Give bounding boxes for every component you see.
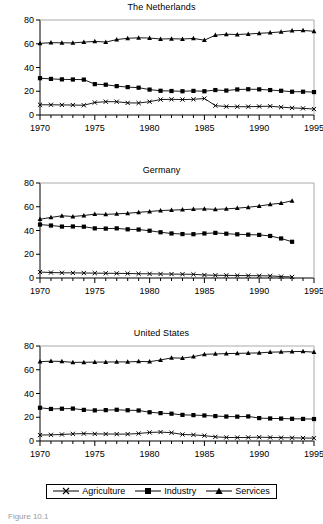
filled-square-marker-icon: [135, 486, 161, 496]
svg-text:1995: 1995: [304, 449, 323, 459]
line-chart-germany: 020406080197019751980198519901995: [0, 177, 323, 307]
svg-text:60: 60: [24, 39, 34, 49]
legend-box: Agriculture Industry Services: [46, 484, 277, 499]
svg-text:1970: 1970: [30, 286, 50, 296]
svg-text:40: 40: [24, 226, 34, 236]
svg-text:40: 40: [24, 389, 34, 399]
svg-text:1985: 1985: [194, 286, 214, 296]
svg-text:1975: 1975: [85, 449, 105, 459]
svg-text:60: 60: [24, 202, 34, 212]
plot-area-germany: 020406080197019751980198519901995: [0, 177, 323, 307]
chart-legend: Agriculture Industry Services: [0, 484, 323, 499]
svg-text:0: 0: [29, 436, 34, 446]
svg-text:40: 40: [24, 63, 34, 73]
legend-label-industry: Industry: [164, 487, 196, 496]
svg-text:1980: 1980: [140, 286, 160, 296]
svg-text:1970: 1970: [30, 449, 50, 459]
svg-text:80: 80: [24, 178, 34, 188]
chart-title-netherlands: The Netherlands: [0, 2, 323, 12]
svg-text:20: 20: [24, 86, 34, 96]
svg-text:1985: 1985: [194, 123, 214, 133]
svg-text:1990: 1990: [249, 286, 269, 296]
chart-panel-netherlands: The Netherlands 020406080197019751980198…: [0, 0, 323, 163]
x-marker-icon: [53, 486, 79, 496]
line-chart-netherlands: 020406080197019751980198519901995: [0, 14, 323, 144]
filled-triangle-marker-icon: [206, 486, 232, 496]
figure-panel: The Netherlands 020406080197019751980198…: [0, 0, 323, 524]
svg-text:1970: 1970: [30, 123, 50, 133]
svg-text:0: 0: [29, 273, 34, 283]
legend-label-agriculture: Agriculture: [82, 487, 125, 496]
figure-caption: Figure 10.1: [8, 512, 323, 524]
svg-text:80: 80: [24, 341, 34, 351]
legend-label-services: Services: [235, 487, 270, 496]
svg-text:1975: 1975: [85, 123, 105, 133]
svg-text:1995: 1995: [304, 123, 323, 133]
svg-text:1975: 1975: [85, 286, 105, 296]
svg-text:20: 20: [24, 249, 34, 259]
plot-area-netherlands: 020406080197019751980198519901995: [0, 14, 323, 144]
line-chart-united-states: 020406080197019751980198519901995: [0, 340, 323, 470]
svg-text:1980: 1980: [140, 449, 160, 459]
svg-text:1990: 1990: [249, 123, 269, 133]
chart-panel-united-states: United States 02040608019701975198019851…: [0, 326, 323, 489]
chart-title-united-states: United States: [0, 328, 323, 338]
svg-text:0: 0: [29, 110, 34, 120]
svg-text:1990: 1990: [249, 449, 269, 459]
legend-item-services: Services: [206, 486, 270, 496]
chart-title-germany: Germany: [0, 165, 323, 175]
chart-panel-germany: Germany 02040608019701975198019851990199…: [0, 163, 323, 326]
svg-text:1985: 1985: [194, 449, 214, 459]
svg-text:1980: 1980: [140, 123, 160, 133]
svg-text:1995: 1995: [304, 286, 323, 296]
svg-text:20: 20: [24, 412, 34, 422]
svg-text:60: 60: [24, 365, 34, 375]
legend-item-agriculture: Agriculture: [53, 486, 125, 496]
svg-text:80: 80: [24, 15, 34, 25]
plot-area-united-states: 020406080197019751980198519901995: [0, 340, 323, 470]
legend-item-industry: Industry: [135, 486, 196, 496]
